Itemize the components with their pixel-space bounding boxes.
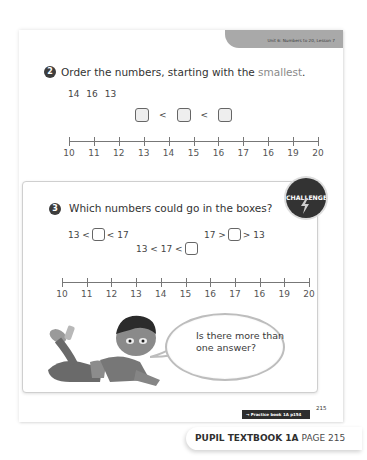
number-line-q3: 1011121314151617161920 — [62, 277, 309, 301]
question-2-prompt: Order the numbers, starting with the sma… — [61, 66, 305, 78]
number-line-tick — [260, 278, 261, 287]
less-than-symbol: < — [201, 110, 209, 120]
number-line-label: 12 — [113, 148, 124, 158]
less-than-symbol: < — [159, 110, 167, 120]
answer-box-3[interactable] — [218, 108, 232, 122]
number-line-label: 17 — [238, 148, 249, 158]
number-line-tick — [94, 137, 95, 146]
page-label: PAGE 215 — [302, 433, 346, 443]
number-line-tick — [194, 137, 195, 146]
book-page-label: PUPIL TEXTBOOK 1APAGE 215 — [186, 427, 362, 450]
book-title: PUPIL TEXTBOOK 1A — [195, 433, 299, 443]
number-line-label: 15 — [188, 148, 199, 158]
question-2-text: Order the numbers, starting with the — [61, 66, 258, 78]
question-3-badge: 3 — [49, 203, 61, 215]
number-line-tick — [69, 137, 70, 146]
speech-line-1: Is there more than — [196, 330, 284, 342]
inequality-1: 13 < < 17 — [68, 228, 129, 241]
number-line-label: 13 — [138, 148, 149, 158]
child-lying-illustration — [40, 308, 160, 392]
number-line-tick — [144, 137, 145, 146]
inequality-left: 17 > — [204, 230, 226, 240]
number-line-label: 20 — [303, 289, 314, 299]
question-2-badge: 2 — [44, 66, 56, 78]
inequality-right: > 13 — [243, 230, 265, 240]
number-line-label: 12 — [106, 289, 117, 299]
given-numbers: 14 16 13 — [68, 89, 116, 99]
number-line-tick — [186, 278, 187, 287]
number-line-label: 10 — [56, 289, 67, 299]
inequality-left: 13 < — [68, 230, 90, 240]
inequality-right: < 17 — [107, 230, 129, 240]
question-3-prompt: Which numbers could go in the boxes? — [69, 202, 272, 214]
number-line-label: 17 — [229, 289, 240, 299]
answer-box-2[interactable] — [177, 108, 191, 122]
challenge-badge: CHALLENGE — [286, 178, 326, 218]
number-line-label: 16 — [254, 289, 265, 299]
inequality-left: 13 < 17 < — [136, 244, 183, 254]
given-number: 13 — [105, 89, 116, 99]
number-line-label: 14 — [163, 148, 174, 158]
question-3-number: 3 — [52, 204, 58, 213]
number-line-label: 10 — [63, 148, 74, 158]
number-line-label: 16 — [213, 148, 224, 158]
question-2-period: . — [302, 66, 305, 78]
ordering-boxes-row: < < — [135, 108, 232, 122]
unit-label: Unit 6: Numbers to 20, Lesson 7 — [267, 38, 335, 43]
number-line-label: 11 — [81, 289, 92, 299]
number-line-tick — [284, 278, 285, 287]
number-line-label: 15 — [180, 289, 191, 299]
number-line-label: 20 — [312, 148, 323, 158]
inequality-3: 13 < 17 < — [136, 242, 198, 255]
number-line-tick — [87, 278, 88, 287]
number-line-tick — [111, 278, 112, 287]
unit-header-tab: Unit 6: Numbers to 20, Lesson 7 — [225, 30, 343, 48]
lightning-bolt-icon — [300, 198, 310, 214]
practice-book-link[interactable]: → Practice book 1A p154 — [242, 410, 310, 419]
number-line-label: 19 — [279, 289, 290, 299]
number-line-tick — [268, 137, 269, 146]
question-2-number: 2 — [47, 67, 53, 76]
number-line-q2: 1011121314151617161920 — [69, 136, 318, 160]
number-line-tick — [210, 278, 211, 287]
speech-bubble-text: Is there more than one answer? — [196, 330, 284, 354]
number-line-label: 19 — [287, 148, 298, 158]
page-number: 215 — [316, 405, 327, 411]
number-line-tick — [293, 137, 294, 146]
question-2-highlight: smallest — [258, 66, 302, 78]
number-line-tick — [243, 137, 244, 146]
speech-line-2: one answer? — [196, 342, 284, 354]
number-line-tick — [318, 137, 319, 146]
number-line-label: 13 — [130, 289, 141, 299]
number-line-label: 14 — [155, 289, 166, 299]
number-line-label: 16 — [262, 148, 273, 158]
number-line-tick — [309, 278, 310, 287]
answer-box-1[interactable] — [135, 108, 149, 122]
number-line-tick — [235, 278, 236, 287]
given-number: 16 — [86, 89, 97, 99]
inequality-box-2[interactable] — [228, 228, 241, 241]
number-line-label: 16 — [204, 289, 215, 299]
inequality-box-1[interactable] — [92, 228, 105, 241]
number-line-tick — [62, 278, 63, 287]
inequality-box-3[interactable] — [185, 242, 198, 255]
number-line-tick — [169, 137, 170, 146]
number-line-label: 11 — [88, 148, 99, 158]
number-line-tick — [161, 278, 162, 287]
number-line-tick — [119, 137, 120, 146]
given-number: 14 — [68, 89, 79, 99]
inequality-2: 17 > > 13 — [204, 228, 265, 241]
number-line-tick — [136, 278, 137, 287]
number-line-tick — [218, 137, 219, 146]
